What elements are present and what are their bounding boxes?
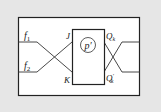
block-label: p′ [83,40,92,51]
port-label-k: K [63,75,71,85]
flipflop-diagram: p′ f1 f2 J K Qk Q′k [0,0,161,112]
output-label-qk-prime: Q′k [106,73,115,84]
